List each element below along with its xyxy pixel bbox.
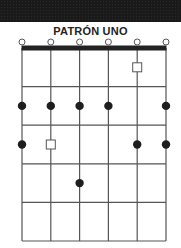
- finger-dot: [133, 140, 141, 148]
- open-string-marker-3: [77, 39, 83, 45]
- open-string-marker-1: [19, 39, 25, 45]
- finger-dot: [162, 140, 170, 148]
- open-string-marker-2: [48, 39, 54, 45]
- open-string-marker-4: [105, 39, 111, 45]
- finger-dot: [75, 102, 83, 110]
- fretboard-diagram: [0, 0, 181, 248]
- nut: [22, 46, 167, 51]
- root-square: [46, 140, 55, 149]
- finger-dot: [18, 102, 26, 110]
- finger-dot: [18, 140, 26, 148]
- finger-dot: [47, 102, 55, 110]
- root-square: [133, 63, 142, 72]
- finger-dot: [162, 102, 170, 110]
- open-string-marker-6: [163, 39, 169, 45]
- finger-dot: [75, 179, 83, 187]
- open-string-marker-5: [134, 39, 140, 45]
- finger-dot: [104, 102, 112, 110]
